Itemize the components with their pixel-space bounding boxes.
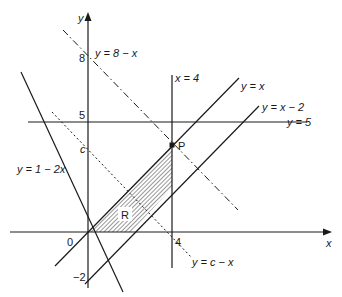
x-axis-label: x xyxy=(325,237,332,249)
y-axis-arrow-icon xyxy=(85,12,92,21)
label-y-c-minus-x: y = c − x xyxy=(191,256,234,268)
label-y-x-minus-2: y = x − 2 xyxy=(261,101,304,113)
tick-y-c: c xyxy=(80,143,86,155)
tick-y-neg2: −2 xyxy=(73,271,86,283)
tick-x-4: 4 xyxy=(175,236,181,248)
graph-svg: y x 0 8 5 c −2 4 y = 8 − x x = 4 y = x y… xyxy=(0,0,342,297)
label-y-5: y = 5 xyxy=(286,116,312,128)
label-point-p: P xyxy=(178,140,185,152)
label-y-x: y = x xyxy=(240,80,265,92)
y-axis-label: y xyxy=(77,12,85,24)
point-p-marker xyxy=(170,143,175,148)
label-region-r: R xyxy=(121,209,129,221)
label-y-8-minus-x: y = 8 − x xyxy=(94,47,138,59)
diagram-canvas: y x 0 8 5 c −2 4 y = 8 − x x = 4 y = x y… xyxy=(0,0,342,297)
origin-label: 0 xyxy=(67,236,73,248)
label-y-1-minus-2x: y = 1 − 2x xyxy=(16,163,66,175)
tick-y-8: 8 xyxy=(79,52,85,64)
line-y-x xyxy=(55,78,239,266)
x-axis-arrow-icon xyxy=(323,229,332,236)
label-x-4: x = 4 xyxy=(174,72,199,84)
tick-y-5: 5 xyxy=(79,109,85,121)
line-y-1-minus-2x xyxy=(21,72,123,292)
